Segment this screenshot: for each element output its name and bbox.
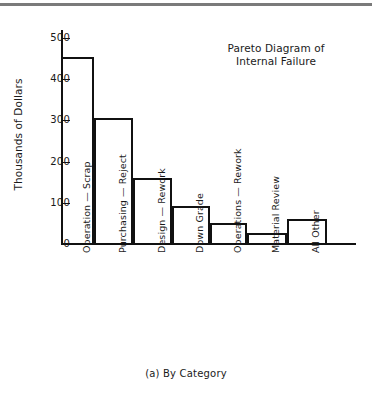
figure-caption: (a) By Category — [0, 368, 372, 380]
category-label: Operation — Scrap — [82, 161, 92, 253]
category-label: All Other — [311, 210, 321, 253]
chart-title-line2: Internal Failure — [236, 55, 316, 67]
chart-title: Pareto Diagram of Internal Failure — [205, 42, 347, 68]
y-axis-title: Thousands of Dollars — [13, 65, 24, 205]
figure-pareto-by-category: 0100200300400500 Thousands of Dollars Pa… — [0, 0, 372, 398]
bar — [287, 219, 327, 244]
bar — [247, 233, 287, 244]
y-tick-label: 500 — [42, 33, 70, 43]
chart-title-line1: Pareto Diagram of — [228, 42, 325, 54]
category-label: Operations — Rework — [233, 148, 243, 253]
category-label: Down Grade — [195, 193, 205, 253]
y-tick-label-wrap: 500 — [28, 33, 70, 43]
category-label: Purchasing — Reject — [118, 154, 128, 253]
category-label: Material Review — [271, 176, 281, 253]
category-label: Design — Rework — [157, 168, 167, 253]
plot-area: 0100200300400500 Thousands of Dollars Pa… — [0, 0, 372, 398]
